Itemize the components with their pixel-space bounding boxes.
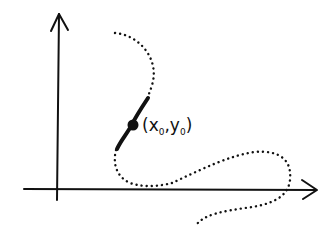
y-axis [57, 14, 59, 200]
label-y: y [170, 115, 180, 135]
label-close-paren: ) [186, 115, 193, 135]
label-open-paren: ( [142, 115, 149, 135]
dotted-curve-lower [115, 150, 290, 224]
label-x: x [149, 115, 159, 135]
dotted-curve-upper [115, 33, 154, 99]
x-axis [24, 189, 316, 190]
point-x0-y0-marker [128, 120, 139, 131]
point-label: (x0,y0) [142, 115, 192, 137]
